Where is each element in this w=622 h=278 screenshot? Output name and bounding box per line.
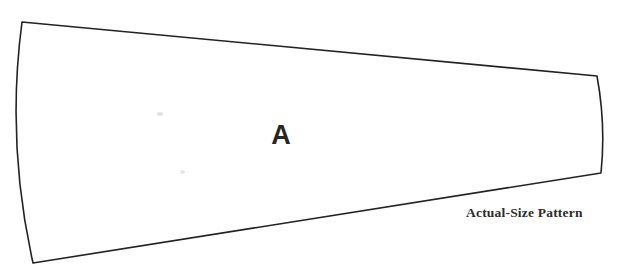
pattern-caption: Actual-Size Pattern [466, 204, 583, 221]
pattern-piece-outline [0, 0, 622, 278]
pattern-piece-label: A [258, 118, 304, 152]
pattern-piece-path [16, 22, 603, 263]
pattern-sheet: A Actual-Size Pattern [0, 0, 622, 278]
